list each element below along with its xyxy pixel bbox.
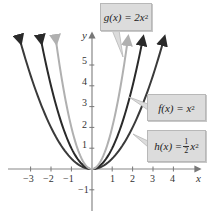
g-label-sup: 2 <box>145 13 149 21</box>
y-tick-label: 1 <box>82 139 87 150</box>
f-label-text: f(x) = x <box>158 102 191 114</box>
g-label-text: g(x) = 2x <box>104 11 145 23</box>
y-axis-label: y <box>82 29 87 41</box>
y-tick-label: 5 <box>82 55 87 66</box>
x-tick-label: −3 <box>23 173 34 184</box>
x-axis-label: x <box>196 172 201 184</box>
x-tick-label: 1 <box>110 173 115 184</box>
f-label-sup: 2 <box>191 104 195 112</box>
legend-label-f: f(x) = x2 <box>147 94 206 121</box>
y-tick-label: 4 <box>82 76 87 87</box>
label-pointers <box>112 30 148 147</box>
x-tick-label: 3 <box>150 173 155 184</box>
y-tick-label: 2 <box>82 119 87 130</box>
x-tick-label: 2 <box>130 173 135 184</box>
y-tick-label: −1 <box>78 184 89 195</box>
h-label-fraction: 12 <box>183 138 189 155</box>
x-tick-label: −1 <box>63 173 74 184</box>
legend-label-h: h(x) = 12x2 <box>147 130 206 162</box>
x-tick-label: −2 <box>43 173 54 184</box>
h-label-text: h(x) = <box>154 140 182 152</box>
y-tick-label: 3 <box>82 97 87 108</box>
h-frac-den: 2 <box>184 147 188 155</box>
legend-label-g: g(x) = 2x2 <box>100 3 152 31</box>
h-label-sup: 2 <box>195 142 199 150</box>
x-tick-label: 4 <box>170 173 175 184</box>
